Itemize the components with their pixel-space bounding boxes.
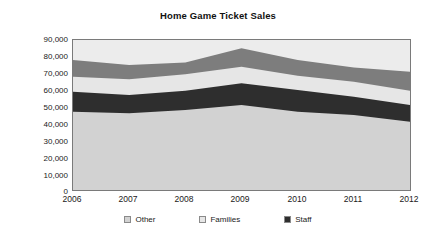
legend-item-staff[interactable]: Staff bbox=[284, 215, 311, 224]
x-tick-label: 2010 bbox=[275, 194, 319, 204]
y-tick-label: 70,000 bbox=[2, 69, 68, 78]
legend-label: Staff bbox=[295, 215, 311, 224]
y-tick-label: 40,000 bbox=[2, 120, 68, 129]
legend-swatch-icon bbox=[124, 216, 131, 223]
y-tick-label: 50,000 bbox=[2, 103, 68, 112]
x-tick-label: 2007 bbox=[106, 194, 150, 204]
y-tick-label: 90,000 bbox=[2, 35, 68, 44]
x-tick-label: 2012 bbox=[387, 194, 431, 204]
x-tick-label: 2011 bbox=[331, 194, 375, 204]
legend-swatch-icon bbox=[284, 216, 291, 223]
x-tick-label: 2006 bbox=[50, 194, 94, 204]
plot-area bbox=[72, 39, 411, 191]
area-series-group bbox=[73, 48, 410, 190]
legend-item-other[interactable]: Other bbox=[124, 215, 155, 224]
legend-swatch-icon bbox=[199, 216, 206, 223]
legend-item-families[interactable]: Families bbox=[199, 215, 240, 224]
chart-container: Home Game Ticket Sales Average per Game … bbox=[0, 0, 436, 234]
stacked-area-svg bbox=[73, 40, 410, 190]
x-tick-label: 2008 bbox=[162, 194, 206, 204]
area-series-other bbox=[73, 105, 410, 190]
legend-label: Families bbox=[210, 215, 240, 224]
y-tick-label: 80,000 bbox=[2, 52, 68, 61]
chart-legend: Other Families Staff bbox=[0, 215, 436, 224]
x-tick-label: 2009 bbox=[218, 194, 262, 204]
y-tick-label: 30,000 bbox=[2, 137, 68, 146]
y-tick-label: 60,000 bbox=[2, 86, 68, 95]
legend-label: Other bbox=[135, 215, 155, 224]
y-tick-label: 20,000 bbox=[2, 154, 68, 163]
y-tick-label: 10,000 bbox=[2, 171, 68, 180]
